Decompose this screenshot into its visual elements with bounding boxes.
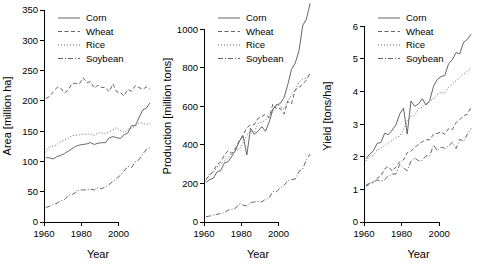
series-line-soybean bbox=[206, 154, 310, 217]
chart-panel-area: 050100150200250300350196019802000YearAre… bbox=[0, 0, 160, 275]
legend-label-corn: Corn bbox=[86, 12, 107, 23]
x-tick-label: 1980 bbox=[391, 228, 412, 239]
y-tick-label: 0 bbox=[193, 216, 198, 227]
y-tick-label: 2 bbox=[353, 151, 358, 162]
y-tick-label: 4 bbox=[353, 86, 358, 97]
y-axis-title: Area [million ha] bbox=[1, 77, 13, 156]
series-line-corn bbox=[46, 103, 150, 159]
figure-panel-row: 050100150200250300350196019802000YearAre… bbox=[0, 0, 481, 275]
x-tick-label: 1960 bbox=[353, 228, 374, 239]
x-axis-title: Year bbox=[247, 248, 270, 260]
y-tick-label: 1000 bbox=[177, 24, 198, 35]
y-tick-label: 1 bbox=[353, 184, 358, 195]
chart-panel-yield: 0123456196019802000YearYield [tons/ha]Co… bbox=[320, 0, 481, 275]
x-axis-title: Year bbox=[87, 248, 110, 260]
series-line-soybean bbox=[366, 128, 471, 185]
x-tick-label: 1980 bbox=[231, 228, 252, 239]
legend-label-soybean: Soybean bbox=[246, 53, 284, 64]
series-line-soybean bbox=[46, 148, 150, 208]
y-tick-label: 200 bbox=[182, 178, 198, 189]
y-tick-label: 50 bbox=[27, 186, 38, 197]
x-tick-label: 1960 bbox=[193, 228, 214, 239]
y-axis-title: Production [million tons] bbox=[161, 58, 173, 175]
legend-label-rice: Rice bbox=[406, 39, 425, 50]
series-line-rice bbox=[366, 68, 471, 161]
series-line-wheat bbox=[46, 78, 150, 99]
x-tick-label: 1980 bbox=[71, 228, 92, 239]
series-line-wheat bbox=[206, 73, 310, 179]
x-tick-label: 2000 bbox=[429, 228, 450, 239]
y-tick-label: 0 bbox=[353, 216, 358, 227]
chart-panel-production: 02004006008001000196019802000YearProduct… bbox=[160, 0, 320, 275]
chart-svg: 02004006008001000196019802000YearProduct… bbox=[160, 0, 320, 275]
x-tick-label: 1960 bbox=[33, 228, 54, 239]
legend-label-wheat: Wheat bbox=[86, 26, 114, 37]
y-tick-label: 800 bbox=[182, 62, 198, 73]
chart-svg: 050100150200250300350196019802000YearAre… bbox=[0, 0, 160, 275]
legend-label-rice: Rice bbox=[246, 39, 265, 50]
y-tick-label: 0 bbox=[33, 216, 38, 227]
y-tick-label: 6 bbox=[353, 21, 358, 32]
legend-label-corn: Corn bbox=[406, 12, 427, 23]
y-tick-label: 3 bbox=[353, 119, 358, 130]
y-tick-label: 250 bbox=[22, 65, 38, 76]
y-tick-label: 150 bbox=[22, 126, 38, 137]
y-axis-title: Yield [tons/ha] bbox=[321, 81, 333, 150]
series-line-rice bbox=[206, 74, 310, 181]
y-tick-label: 300 bbox=[22, 35, 38, 46]
y-tick-label: 350 bbox=[22, 4, 38, 15]
x-tick-label: 2000 bbox=[108, 228, 129, 239]
legend-label-rice: Rice bbox=[86, 39, 105, 50]
series-line-rice bbox=[46, 123, 150, 152]
x-axis-title: Year bbox=[407, 248, 430, 260]
legend-label-wheat: Wheat bbox=[406, 26, 434, 37]
chart-svg: 0123456196019802000YearYield [tons/ha]Co… bbox=[320, 0, 481, 275]
x-tick-label: 2000 bbox=[268, 228, 289, 239]
y-tick-label: 100 bbox=[22, 156, 38, 167]
y-tick-label: 200 bbox=[22, 95, 38, 106]
y-tick-label: 5 bbox=[353, 53, 358, 64]
y-tick-label: 600 bbox=[182, 101, 198, 112]
series-line-wheat bbox=[366, 107, 471, 187]
legend-label-soybean: Soybean bbox=[406, 53, 444, 64]
legend-label-corn: Corn bbox=[246, 12, 267, 23]
y-tick-label: 400 bbox=[182, 139, 198, 150]
legend-label-soybean: Soybean bbox=[86, 53, 124, 64]
legend-label-wheat: Wheat bbox=[246, 26, 274, 37]
